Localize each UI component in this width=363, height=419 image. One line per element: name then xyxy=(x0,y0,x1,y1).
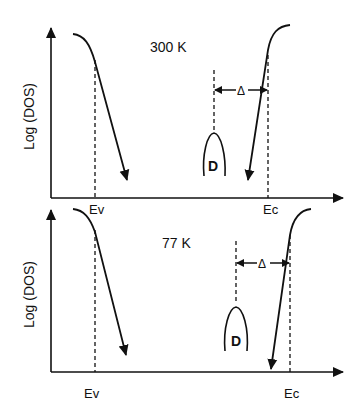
defect-label: D xyxy=(208,158,218,174)
ev-label-top: Ev xyxy=(89,202,105,217)
panel-300k: Log (DOS) 300 K D Δ xyxy=(21,25,343,198)
gap-label: Δ xyxy=(237,84,245,98)
y-axis-label: Log (DOS) xyxy=(21,83,37,150)
gap-label: Δ xyxy=(258,257,266,271)
ec-label-top: Ec xyxy=(263,202,279,217)
dos-diagram: Log (DOS) 300 K D Δ Ev Ec Log (DOS) 77 K xyxy=(0,0,363,419)
panel-77k: Ev Ec Log (DOS) 77 K D Δ Ev Ec xyxy=(21,202,343,401)
conduction-band-curve xyxy=(248,25,290,180)
defect-label: D xyxy=(231,333,241,349)
valence-band-curve xyxy=(73,34,127,180)
valence-band-curve xyxy=(73,209,126,355)
ec-label: Ec xyxy=(284,386,300,401)
temperature-label: 300 K xyxy=(150,39,187,55)
y-axis-label: Log (DOS) xyxy=(21,261,37,328)
conduction-band-curve xyxy=(271,209,311,369)
temperature-label: 77 K xyxy=(162,235,191,251)
ev-label: Ev xyxy=(84,386,100,401)
